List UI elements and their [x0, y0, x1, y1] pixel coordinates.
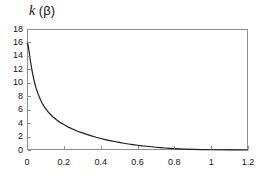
chart-figure: k (β) β 024681012141618 00.20.40.60.811.…	[0, 0, 265, 183]
y-tick-mark	[28, 123, 31, 124]
y-tick-label: 6	[1, 105, 23, 114]
y-tick-label: 18	[1, 25, 23, 34]
x-tick-mark	[138, 146, 139, 149]
y-tick-mark	[28, 83, 31, 84]
y-tick-mark	[28, 69, 31, 70]
x-tick-label: 0.4	[86, 158, 116, 167]
x-tick-mark	[248, 146, 249, 149]
y-tick-label: 10	[1, 78, 23, 87]
x-tick-label: 0	[12, 158, 42, 167]
x-tick-label: 0.2	[49, 158, 79, 167]
y-tick-label: 12	[1, 65, 23, 74]
y-axis-title: k (β)	[29, 3, 55, 19]
x-tick-mark	[211, 146, 212, 149]
series-line-k-beta	[27, 44, 248, 150]
y-tick-label: 2	[1, 132, 23, 141]
y-tick-label: 16	[1, 38, 23, 47]
y-tick-mark	[28, 29, 31, 30]
x-tick-label: 0.6	[123, 158, 153, 167]
y-tick-mark	[28, 96, 31, 97]
y-tick-mark	[28, 56, 31, 57]
y-tick-mark	[28, 150, 31, 151]
x-tick-label: 0.8	[159, 158, 189, 167]
y-tick-label: 4	[1, 119, 23, 128]
y-tick-mark	[28, 137, 31, 138]
x-tick-label: 1	[196, 158, 226, 167]
y-tick-label: 0	[1, 146, 23, 155]
x-tick-label: 1.2	[233, 158, 263, 167]
y-tick-mark	[28, 42, 31, 43]
data-curve	[27, 29, 248, 150]
x-tick-mark	[27, 146, 28, 149]
x-tick-mark	[174, 146, 175, 149]
x-tick-mark	[64, 146, 65, 149]
y-tick-mark	[28, 110, 31, 111]
y-tick-label: 8	[1, 92, 23, 101]
y-tick-label: 14	[1, 51, 23, 60]
x-tick-mark	[101, 146, 102, 149]
y-axis-title-argument: (β)	[35, 3, 55, 18]
